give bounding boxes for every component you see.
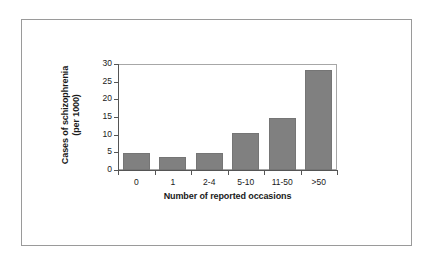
y-tick-mark	[114, 99, 118, 100]
y-tick-label: 20	[90, 94, 112, 103]
x-tick-label: >50	[301, 177, 338, 187]
bar	[232, 133, 259, 170]
y-tick-mark	[114, 117, 118, 118]
y-tick-label: 30	[90, 59, 112, 68]
y-tick-label: 15	[90, 112, 112, 121]
y-tick-mark	[114, 64, 118, 65]
x-axis-title: Number of reported occasions	[118, 191, 337, 201]
bar-chart: Cases of schizophrenia (per 1000) 051015…	[0, 0, 434, 271]
x-tick-mark	[191, 171, 192, 175]
x-tick-mark	[301, 171, 302, 175]
bar	[269, 118, 296, 170]
y-tick-mark	[114, 152, 118, 153]
bar	[123, 153, 150, 170]
plot-area	[118, 64, 337, 170]
x-tick-mark	[337, 171, 338, 175]
y-axis-title: Cases of schizophrenia (per 1000)	[60, 55, 84, 175]
y-tick-label: 25	[90, 77, 112, 86]
y-tick-label: 10	[90, 130, 112, 139]
y-axis-line	[118, 64, 119, 171]
x-tick-mark	[228, 171, 229, 175]
y-tick-mark	[114, 135, 118, 136]
bar	[196, 153, 223, 170]
y-tick-label: 5	[90, 147, 112, 156]
x-tick-label: 0	[118, 177, 155, 187]
y-axis-title-line2: (per 1000)	[71, 55, 82, 175]
bar	[159, 157, 186, 170]
y-axis-title-line1: Cases of schizophrenia	[60, 55, 71, 175]
y-tick-label: 0	[90, 165, 112, 174]
x-tick-label: 11-50	[264, 177, 301, 187]
x-tick-label: 2-4	[191, 177, 228, 187]
x-tick-mark	[118, 171, 119, 175]
x-tick-label: 5-10	[228, 177, 265, 187]
y-tick-mark	[114, 82, 118, 83]
x-tick-mark	[264, 171, 265, 175]
x-tick-mark	[155, 171, 156, 175]
x-tick-label: 1	[155, 177, 192, 187]
bar	[305, 70, 332, 170]
